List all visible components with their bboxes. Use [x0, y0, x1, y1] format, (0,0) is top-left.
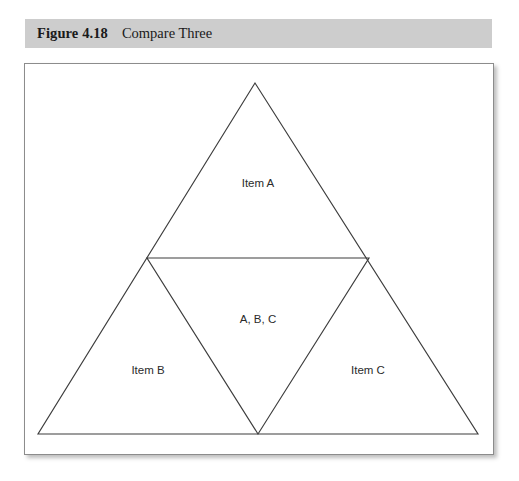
- inner-inverted-triangle: [147, 258, 369, 434]
- figure-number: Figure 4.18: [37, 25, 108, 42]
- label-shared-abc: A, B, C: [240, 313, 276, 325]
- label-item-a: Item A: [242, 177, 275, 189]
- figure-caption-bar: Figure 4.18 Compare Three: [25, 19, 492, 48]
- figure-root: Figure 4.18 Compare Three Item A A, B, C…: [0, 0, 519, 481]
- triangle-diagram: Item A A, B, C Item B Item C: [24, 63, 494, 455]
- inner-triangle-group: [147, 258, 369, 434]
- label-item-b: Item B: [131, 364, 165, 376]
- label-group: Item A A, B, C Item B Item C: [131, 177, 385, 376]
- label-item-c: Item C: [351, 364, 385, 376]
- figure-title: Compare Three: [122, 25, 212, 42]
